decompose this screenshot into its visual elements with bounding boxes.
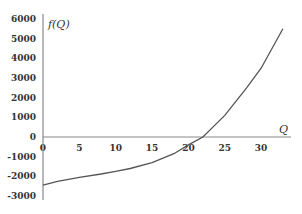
- y-tick-label: 2000: [11, 93, 36, 103]
- x-tick-label: 15: [146, 143, 159, 153]
- y-tick-label: -1000: [7, 152, 36, 162]
- x-tick-label: 5: [76, 143, 82, 153]
- y-tick-label: 0: [30, 132, 36, 142]
- y-tick-label: 3000: [11, 73, 36, 83]
- x-tick-label: 25: [218, 143, 231, 153]
- x-axis-ticks: 051015202530: [40, 143, 267, 153]
- y-tick-label: -2000: [7, 171, 36, 181]
- chart: 6000500040003000200010000-1000-2000-3000…: [0, 0, 302, 214]
- y-tick-label: 5000: [11, 34, 36, 44]
- function-curve: [43, 29, 283, 185]
- x-tick-label: 10: [109, 143, 122, 153]
- y-tick-label: -3000: [7, 191, 36, 201]
- y-axis-label: f(Q): [47, 18, 70, 31]
- y-axis-ticks: 6000500040003000200010000-1000-2000-3000: [7, 14, 36, 201]
- y-tick-label: 4000: [11, 53, 36, 63]
- x-axis-label: Q: [279, 123, 288, 136]
- x-tick-label: 30: [255, 143, 268, 153]
- y-tick-label: 1000: [11, 112, 36, 122]
- y-tick-label: 6000: [11, 14, 36, 24]
